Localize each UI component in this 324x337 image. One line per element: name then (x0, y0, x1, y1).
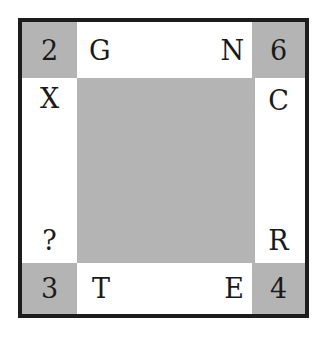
right-col-top-letter: C (252, 80, 305, 120)
top-row-left-letter: G (89, 22, 111, 78)
puzzle-board: 2 6 3 4 G N T E X ? C R (18, 18, 309, 318)
letter: E (224, 273, 244, 304)
corner-bottom-left: 3 (22, 263, 77, 314)
letter: G (89, 35, 111, 66)
letter: X (40, 83, 59, 114)
letter: N (220, 35, 244, 66)
corner-value: 2 (41, 35, 58, 66)
corner-value: 4 (270, 273, 287, 304)
right-col-bottom-letter: R (252, 220, 305, 260)
bottom-row-left-letter: T (92, 263, 110, 314)
corner-value: 6 (270, 35, 287, 66)
center-shaded-area (77, 78, 255, 263)
top-row-right-letter: N (202, 22, 244, 78)
letter: T (92, 273, 110, 304)
letter: C (268, 85, 289, 116)
corner-value: 3 (41, 273, 58, 304)
letter: R (268, 225, 288, 256)
bottom-row-right-letter: E (202, 263, 244, 314)
left-col-bottom-letter: ? (22, 220, 77, 260)
corner-top-left: 2 (22, 22, 77, 78)
corner-top-right: 6 (252, 22, 305, 78)
left-col-top-letter: X (22, 78, 77, 118)
corner-bottom-right: 4 (252, 263, 305, 314)
letter: ? (42, 225, 56, 256)
